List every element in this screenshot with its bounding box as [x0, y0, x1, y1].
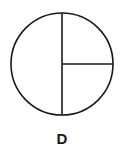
divided-circle-figure: [0, 0, 124, 150]
figure-label: D: [0, 130, 124, 147]
